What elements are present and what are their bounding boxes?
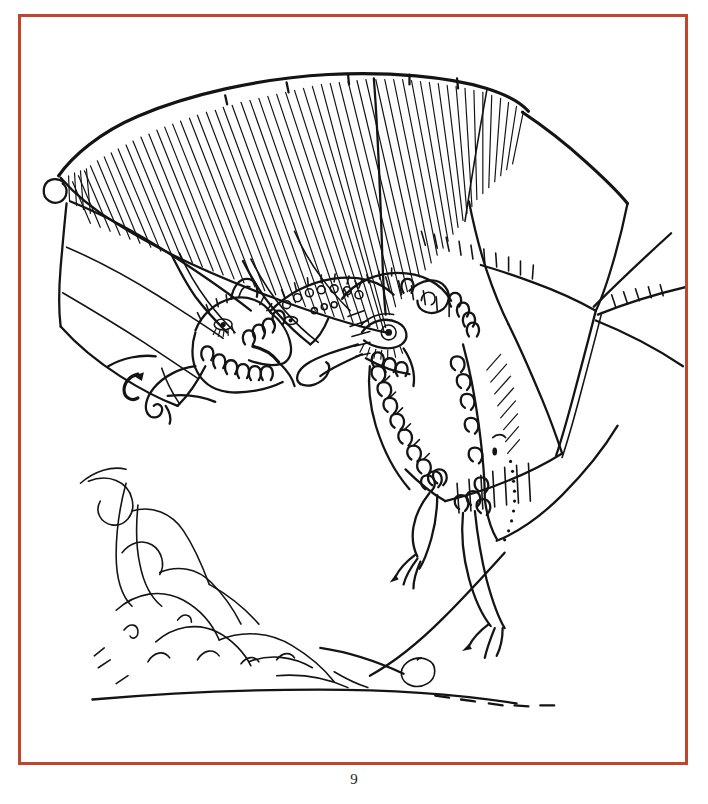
page-number: 9: [0, 772, 708, 787]
plate-border: [18, 14, 688, 765]
dragon-body: [369, 344, 519, 541]
ear-scallops: [449, 293, 479, 337]
body-shading: [487, 354, 520, 453]
dragon-legs: [390, 469, 505, 657]
left-wing-membrane: [44, 169, 251, 406]
book-page: 9: [0, 0, 708, 804]
dragon-tail: [370, 426, 618, 676]
dragon-illustration: [21, 17, 685, 762]
artwork-canvas: [21, 17, 685, 762]
body-stipple: [492, 448, 516, 542]
right-wing: [348, 112, 685, 513]
